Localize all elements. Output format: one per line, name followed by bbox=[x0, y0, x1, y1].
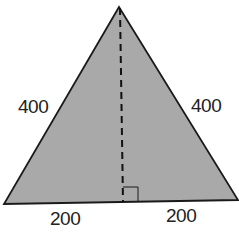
triangle-figure bbox=[0, 0, 239, 237]
left-side-label: 400 bbox=[18, 96, 48, 118]
triangle-diagram: 400 400 200 200 bbox=[0, 0, 239, 237]
base-right-label: 200 bbox=[166, 205, 196, 227]
base-left-label: 200 bbox=[50, 208, 80, 230]
right-side-label: 400 bbox=[191, 95, 221, 117]
